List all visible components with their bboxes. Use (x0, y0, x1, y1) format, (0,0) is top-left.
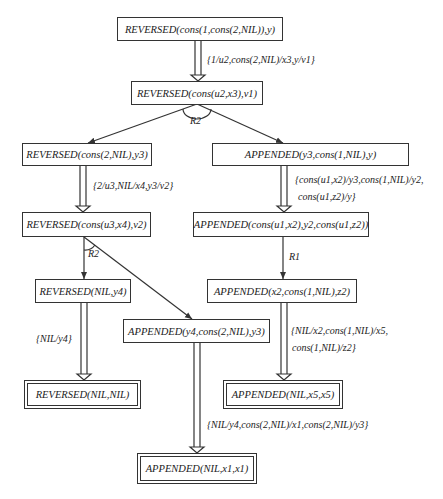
substitution-5a: {NIL/x2,cons(1,NIL)/x5, (291, 323, 388, 338)
node-label: APPENDED(y4,cons(2,NIL),y3) (128, 326, 265, 337)
edge-n5-n9 (84, 237, 192, 319)
substitution-6: {NIL/y4,cons(2,NIL)/x1,cons(2,NIL)/y3} (207, 417, 368, 432)
substitution-3b: cons(u1,z2)/y} (298, 189, 356, 204)
double-arrow-5 (277, 303, 291, 380)
substitution-5b: cons(1,NIL)/z2} (292, 340, 356, 355)
node-label: APPENDED(cons(u1,x2),y2,cons(u1,z2)) (194, 219, 368, 230)
node-label: REVERSED(cons(2,NIL),y3) (26, 149, 147, 160)
node-final-appended-x5: APPENDED(NIL,x5,x5) (223, 380, 343, 409)
double-arrow-1 (191, 40, 205, 81)
substitution-1: {1/u2,cons(2,NIL)/x3,y/v1} (207, 52, 315, 67)
node-reversed-u3: REVERSED(cons(u3,x4),v2) (22, 212, 151, 237)
substitution-3a: {cons(u1,x2)/y3,cons(1,NIL)/y2, (295, 172, 423, 187)
node-appended-y4: APPENDED(y4,cons(2,NIL),y3) (123, 319, 270, 343)
node-label: APPENDED(y3,cons(1,NIL),y) (245, 149, 377, 160)
node-reversed-u2: REVERSED(cons(u2,x3),v1) (131, 81, 263, 105)
node-reversed-y3: REVERSED(cons(2,NIL),y3) (22, 143, 152, 166)
node-label: APPENDED(NIL,x1,x1) (146, 463, 249, 474)
node-label: APPENDED(x2,cons(1,NIL),z2) (214, 286, 350, 297)
node-appended-x2: APPENDED(x2,cons(1,NIL),z2) (207, 279, 357, 303)
node-reversed-initial: REVERSED(cons(1,cons(2,NIL)),y) (117, 17, 283, 41)
rule-label-left: R2 (88, 246, 99, 261)
double-arrow-6 (190, 343, 204, 453)
node-label: REVERSED(NIL,NIL) (36, 389, 130, 400)
node-final-reversed-nil: REVERSED(NIL,NIL) (24, 380, 141, 409)
edge-n2-n3 (88, 104, 197, 143)
rule-label-right: R1 (289, 249, 300, 264)
node-label: REVERSED(cons(1,cons(2,NIL)),y) (125, 24, 275, 35)
node-appended-y3: APPENDED(y3,cons(1,NIL),y) (212, 143, 409, 166)
edge-n2-n4 (197, 104, 283, 143)
node-final-appended-x1: APPENDED(NIL,x1,x1) (137, 453, 257, 484)
node-label: REVERSED(cons(u3,x4),v2) (26, 219, 146, 230)
double-arrow-4 (77, 303, 91, 380)
substitution-4: {NIL/y4} (36, 331, 72, 346)
node-reversed-nil-y4: REVERSED(NIL,y4) (35, 279, 131, 303)
double-arrow-2 (76, 165, 90, 212)
node-label: APPENDED(NIL,x5,x5) (232, 389, 335, 400)
rule-label-top: R2 (190, 113, 201, 128)
node-label: REVERSED(NIL,y4) (39, 286, 126, 297)
node-appended-u1: APPENDED(cons(u1,x2),y2,cons(u1,z2)) (193, 212, 369, 237)
substitution-2: {2/u3,NIL/x4,y3/v2} (93, 178, 173, 193)
double-arrow-3 (277, 165, 291, 212)
node-label: REVERSED(cons(u2,x3),v1) (137, 88, 257, 99)
